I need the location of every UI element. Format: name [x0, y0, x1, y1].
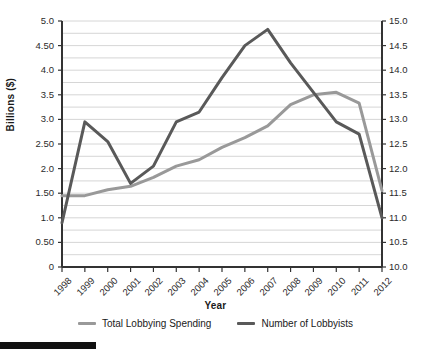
y-axis-right-tick-label: 13.0 [389, 113, 429, 124]
y-axis-left-tick-label: 1.0 [14, 212, 54, 223]
series-line-number-of-lobbyists [62, 29, 382, 222]
y-axis-left-tick-label: 4.50 [14, 40, 54, 51]
legend-swatch [78, 322, 96, 326]
y-axis-right-tick-label: 10.0 [389, 261, 429, 272]
y-axis-left-tick-label: 0.50 [14, 236, 54, 247]
y-axis-left-tick-label: 3.5 [14, 89, 54, 100]
y-axis-right-tick-label: 10.5 [389, 236, 429, 247]
y-axis-right-tick-label: 14.5 [389, 40, 429, 51]
plot-area [0, 0, 431, 300]
y-axis-right-tick-label: 11.5 [389, 187, 429, 198]
legend-item[interactable]: Number of Lobbyists [237, 318, 353, 329]
y-axis-right-tick-label: 14.0 [389, 64, 429, 75]
y-axis-right-tick-label: 13.5 [389, 89, 429, 100]
y-axis-right-tick-label: 12.5 [389, 138, 429, 149]
legend-swatch [237, 322, 255, 326]
y-axis-right-tick-label: 15.0 [389, 15, 429, 26]
y-axis-left-tick-label: 1.50 [14, 187, 54, 198]
y-axis-left-tick-label: 2.0 [14, 163, 54, 174]
legend-item[interactable]: Total Lobbying Spending [78, 318, 212, 329]
accent-bar [0, 342, 96, 349]
data-series [62, 29, 382, 222]
y-axis-left-tick-label: 3.0 [14, 113, 54, 124]
legend-label: Total Lobbying Spending [102, 318, 212, 329]
y-axis-left-tick-label: 5.0 [14, 15, 54, 26]
y-axis-right-tick-label: 12.0 [389, 163, 429, 174]
legend-label: Number of Lobbyists [261, 318, 353, 329]
lobbying-chart: Billions ($) Number in Thousands Year 00… [0, 0, 431, 355]
y-axis-right-tick-label: 11.0 [389, 212, 429, 223]
chart-legend: Total Lobbying SpendingNumber of Lobbyis… [0, 318, 431, 329]
y-axis-left-tick-label: 0 [14, 261, 54, 272]
y-axis-left-tick-label: 2.50 [14, 138, 54, 149]
y-axis-left-tick-label: 4.0 [14, 64, 54, 75]
